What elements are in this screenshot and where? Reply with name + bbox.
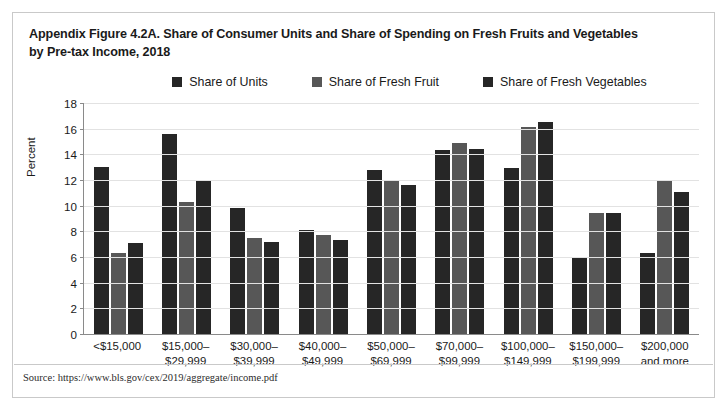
y-tick-mark (80, 308, 84, 309)
legend-swatch-icon (483, 77, 493, 87)
gridline (84, 206, 699, 207)
y-tick-mark (80, 103, 84, 104)
bar[interactable] (367, 170, 382, 334)
legend-label: Share of Units (189, 75, 268, 89)
y-tick-mark (80, 180, 84, 181)
y-tick-label: 8 (71, 225, 77, 238)
bar[interactable] (316, 235, 331, 334)
figure-card: Appendix Figure 4.2A. Share of Consumer … (12, 12, 715, 398)
bar-group (426, 103, 494, 334)
screenshot-root: Appendix Figure 4.2A. Share of Consumer … (0, 0, 727, 410)
bar[interactable] (230, 208, 245, 334)
bar[interactable] (333, 240, 348, 334)
y-tick-mark (80, 154, 84, 155)
figure-title-line-2: by Pre-tax Income, 2018 (29, 43, 669, 61)
bar-group (357, 103, 425, 334)
figure-title: Appendix Figure 4.2A. Share of Consumer … (29, 25, 669, 62)
bar[interactable] (572, 257, 587, 334)
chart-legend: Share of UnitsShare of Fresh FruitShare … (13, 75, 716, 89)
source-divider (14, 364, 713, 365)
gridline (84, 103, 699, 104)
gridline (84, 180, 699, 181)
bar[interactable] (162, 134, 177, 334)
legend-label: Share of Fresh Fruit (329, 75, 439, 89)
y-tick-label: 14 (64, 148, 77, 161)
legend-item-0[interactable]: Share of Units (172, 75, 268, 89)
gridline (84, 231, 699, 232)
y-axis-title: Percent (25, 137, 37, 177)
legend-swatch-icon (172, 77, 182, 87)
legend-swatch-icon (312, 77, 322, 87)
bar-group (631, 103, 699, 334)
y-tick-mark (80, 283, 84, 284)
y-tick-mark (80, 334, 84, 335)
bar[interactable] (435, 150, 450, 334)
y-tick-label: 16 (64, 122, 77, 135)
y-tick-label: 6 (71, 250, 77, 263)
y-tick-label: 18 (64, 97, 77, 110)
y-tick-label: 10 (64, 199, 77, 212)
legend-item-1[interactable]: Share of Fresh Fruit (312, 75, 439, 89)
legend-item-2[interactable]: Share of Fresh Vegetables (483, 75, 647, 89)
y-tick-label: 0 (71, 328, 77, 341)
gridline (84, 308, 699, 309)
plot-wrapper: Percent 024681012141618 <$15,000$15,000–… (29, 99, 701, 344)
plot-area: 024681012141618 (83, 103, 699, 335)
bar-group (494, 103, 562, 334)
bar[interactable] (247, 238, 262, 334)
bar[interactable] (469, 149, 484, 334)
bar[interactable] (111, 253, 126, 334)
bar-group (221, 103, 289, 334)
gridline (84, 283, 699, 284)
bar-group (84, 103, 152, 334)
gridline (84, 129, 699, 130)
bars-layer (84, 103, 699, 334)
gridline (84, 154, 699, 155)
bar[interactable] (452, 143, 467, 334)
bar[interactable] (640, 253, 655, 334)
bar[interactable] (401, 185, 416, 334)
bar[interactable] (264, 242, 279, 334)
source-note: Source: https://www.bls.gov/cex/2019/agg… (23, 372, 278, 383)
bar-group (562, 103, 630, 334)
y-tick-mark (80, 231, 84, 232)
y-tick-label: 2 (71, 302, 77, 315)
y-tick-label: 4 (71, 276, 77, 289)
bar[interactable] (179, 202, 194, 334)
y-tick-mark (80, 257, 84, 258)
y-tick-mark (80, 206, 84, 207)
y-tick-label: 12 (64, 173, 77, 186)
bar-group (289, 103, 357, 334)
y-tick-mark (80, 129, 84, 130)
gridline (84, 257, 699, 258)
bar[interactable] (674, 192, 689, 334)
bar-group (152, 103, 220, 334)
figure-title-line-1: Appendix Figure 4.2A. Share of Consumer … (29, 25, 669, 43)
legend-label: Share of Fresh Vegetables (500, 75, 647, 89)
